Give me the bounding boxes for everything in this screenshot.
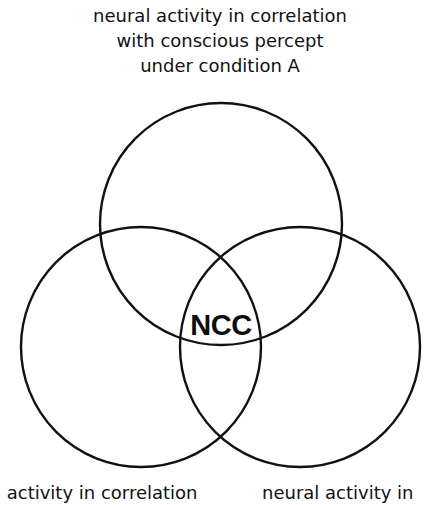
ncc-label: NCC	[171, 309, 271, 341]
circle-bottom-right	[180, 227, 420, 467]
bottom-left-label: l activity in correlation	[0, 480, 198, 505]
circle-bottom-left	[21, 227, 261, 467]
bottom-right-label: neural activity in	[262, 480, 414, 505]
